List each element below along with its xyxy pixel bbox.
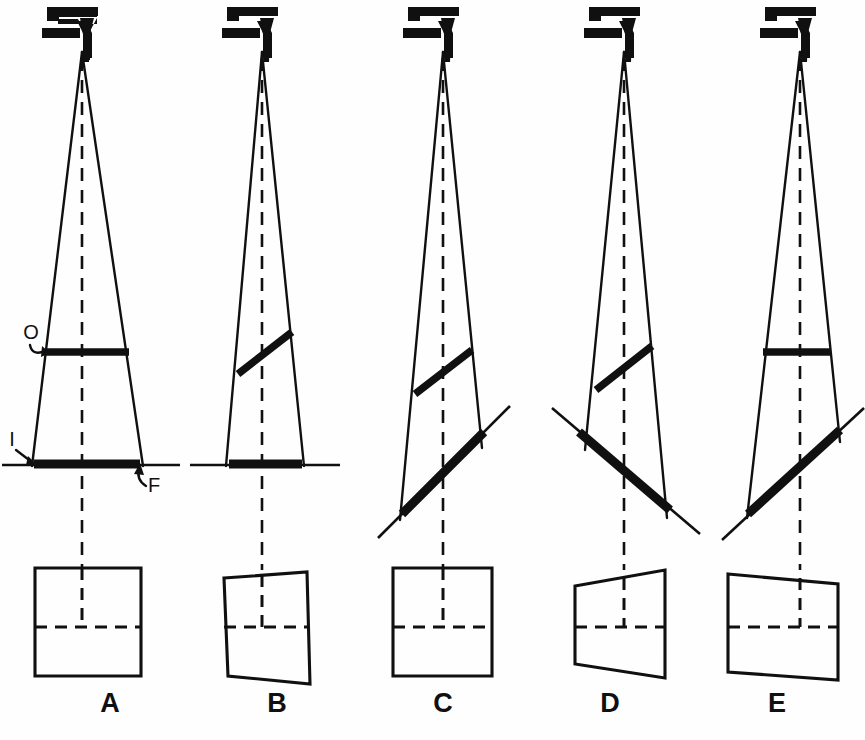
panel-C: C <box>378 7 510 718</box>
xray-tube-icon-C <box>403 7 459 62</box>
xray-tube-icon-D <box>584 7 640 62</box>
beam-edge-left-D <box>585 52 624 450</box>
radiograph-distortion-figure: O I F A <box>0 0 865 740</box>
beam-edge-right-E <box>800 52 840 442</box>
beam-edge-right-C <box>443 52 482 448</box>
film-annotation-label: F <box>148 474 160 496</box>
beam-edge-left-C <box>400 52 443 520</box>
beam-edge-right-A <box>82 52 143 466</box>
annotation-film-A: F <box>134 463 160 496</box>
film-thick-E <box>748 430 840 514</box>
panel-letter-D: D <box>600 688 620 718</box>
panel-E: E <box>722 7 864 718</box>
beam-edge-right-D <box>624 52 667 518</box>
beam-edge-left-E <box>747 52 800 518</box>
image-shape-E <box>728 574 838 680</box>
image-shape-D <box>575 570 665 678</box>
panel-letter-E: E <box>768 688 786 718</box>
panel-B: B <box>190 7 340 718</box>
annotation-object-A: O <box>23 321 50 357</box>
xray-tube-icon-E <box>760 7 816 62</box>
panel-letter-B: B <box>267 688 287 718</box>
beam-edge-right-B <box>262 52 304 466</box>
object-bar-B <box>238 332 292 374</box>
xray-tube-icon <box>42 7 98 62</box>
panel-A: O I F A <box>2 7 180 718</box>
image-annotation-label: I <box>9 428 15 450</box>
xray-tube-icon-B <box>222 7 278 62</box>
image-shape-C <box>393 568 492 676</box>
image-shape-A <box>35 568 141 676</box>
beam-edge-left-B <box>226 52 262 466</box>
panel-letter-A: A <box>100 688 120 718</box>
panel-D: D <box>552 7 700 718</box>
image-shape-B <box>224 572 310 684</box>
beam-edge-left-A <box>32 52 82 466</box>
panel-letter-C: C <box>433 688 453 718</box>
figure-canvas: O I F A <box>0 0 865 740</box>
object-annotation-label: O <box>23 321 39 343</box>
